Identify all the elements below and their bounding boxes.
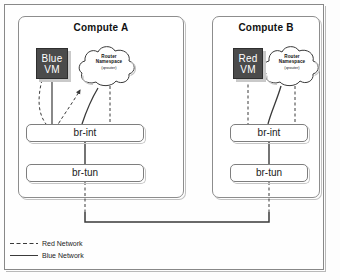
br-tun-b-box: br-tun [230, 164, 308, 182]
link-brint-to-router-a-dashed [56, 90, 80, 128]
legend-red-network-label: Red Network [42, 240, 82, 247]
cloud-a-shape [79, 47, 134, 86]
diagram-canvas: Compute A Compute B [0, 0, 340, 280]
br-tun-a-box: br-tun [26, 164, 144, 182]
red-vm-line2: VM [234, 64, 262, 75]
blue-vm-line1: Blue [37, 53, 67, 64]
router-namespace-cloud-a [79, 47, 135, 86]
blue-vm-box: Blue VM [36, 48, 68, 79]
router-namespace-cloud-b [263, 47, 319, 86]
link-router-to-brint-b-solid [268, 86, 281, 124]
red-vm-line1: Red [234, 53, 262, 64]
red-vm-box: Red VM [233, 48, 263, 79]
br-int-a-box: br-int [26, 124, 144, 142]
link-brint-to-router-a-solid [82, 88, 98, 124]
link-red-vm-path-a [39, 80, 46, 124]
tunnel-bus-link [85, 212, 269, 222]
br-int-b-box: br-int [230, 124, 308, 142]
blue-vm-line2: VM [37, 64, 67, 75]
legend-blue-network-label: Blue Network [42, 252, 84, 259]
cloud-b-shape [263, 47, 318, 86]
